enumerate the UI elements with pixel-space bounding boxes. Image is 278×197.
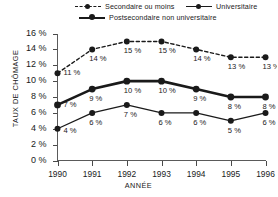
data-point-label: 7 % [124, 110, 137, 119]
data-point-label: 10 % [159, 86, 176, 95]
data-point[interactable] [159, 38, 165, 44]
data-point[interactable] [89, 86, 96, 93]
data-point-label: 4 % [64, 126, 77, 135]
data-point[interactable] [55, 70, 61, 76]
data-point-label: 6 % [89, 118, 102, 127]
data-point[interactable] [158, 78, 165, 85]
data-point-label: 11 % [64, 68, 81, 77]
data-point-label: 7 % [64, 100, 77, 109]
data-point[interactable] [262, 94, 269, 101]
unemployment-rate-line-chart: Secondaire ou moins Universitaire Postse… [0, 0, 277, 197]
data-point-label: 14 % [193, 54, 210, 63]
data-point-label: 8 % [228, 102, 241, 111]
data-point[interactable] [89, 110, 95, 116]
data-point-label: 13 % [228, 62, 245, 71]
data-point[interactable] [193, 46, 199, 52]
data-point[interactable] [193, 110, 199, 116]
data-point-label: 5 % [228, 126, 241, 135]
data-point[interactable] [159, 110, 165, 116]
data-point-label: 13 % [263, 62, 278, 71]
data-point-label: 6 % [159, 118, 172, 127]
data-point[interactable] [89, 46, 95, 52]
data-point-label: 15 % [159, 46, 176, 55]
data-point-label: 6 % [193, 118, 206, 127]
data-point[interactable] [227, 94, 234, 101]
data-point-label: 8 % [263, 102, 276, 111]
data-point[interactable] [123, 78, 130, 85]
plot-area [0, 0, 277, 197]
data-point[interactable] [228, 118, 234, 124]
data-point[interactable] [263, 54, 269, 60]
data-point-label: 6 % [263, 118, 276, 127]
data-point[interactable] [124, 102, 130, 108]
data-point[interactable] [228, 54, 234, 60]
data-point[interactable] [124, 38, 130, 44]
data-point-label: 9 % [89, 94, 102, 103]
data-point-label: 14 % [89, 54, 106, 63]
data-point-label: 10 % [124, 86, 141, 95]
data-point[interactable] [54, 102, 61, 109]
data-point-label: 15 % [124, 46, 141, 55]
data-point[interactable] [193, 86, 200, 93]
data-point[interactable] [55, 126, 61, 132]
data-point-label: 9 % [193, 94, 206, 103]
